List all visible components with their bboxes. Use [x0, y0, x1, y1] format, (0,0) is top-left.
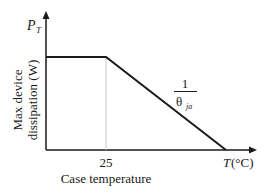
slope-denominator: θ	[176, 94, 182, 109]
y-axis-label-line1: Max device	[10, 69, 25, 130]
slope-denominator-sub: ja	[185, 102, 192, 111]
y-axis-arrow-icon	[43, 11, 50, 19]
y-axis-label-line2: dissipation (W)	[25, 60, 40, 141]
y-axis-symbol-sub: T	[36, 25, 42, 35]
x-tick-25: 25	[100, 155, 113, 170]
derating-chart: P T Max device dissipation (W) 1 θ ja 25…	[0, 0, 270, 193]
derating-curve	[46, 57, 226, 150]
y-axis-symbol: P	[26, 18, 36, 33]
x-axis-symbol: T	[223, 155, 231, 170]
x-axis-unit: (°C)	[231, 155, 254, 170]
x-axis-label: Case temperature	[61, 171, 152, 186]
slope-numerator: 1	[182, 76, 189, 91]
x-axis-arrow-icon	[249, 147, 257, 154]
